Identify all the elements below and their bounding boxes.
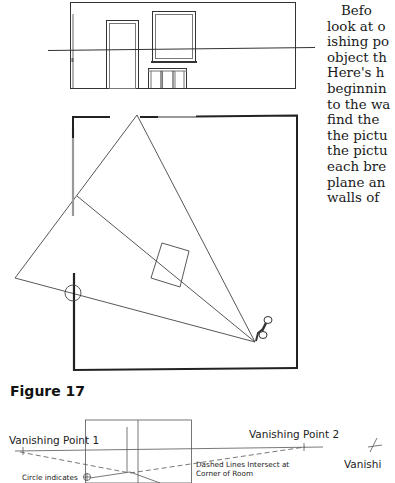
window-outer xyxy=(153,12,196,62)
partial-vp-tick xyxy=(370,438,377,452)
vp3-label-partial: Vanishi xyxy=(344,458,381,470)
wall-elevation xyxy=(48,3,315,89)
view-cone-left-edge xyxy=(15,115,137,278)
floor-line-left xyxy=(90,472,130,478)
vp2-label: Vanishing Point 2 xyxy=(249,428,339,440)
floor-line-right xyxy=(130,472,160,483)
door-outer xyxy=(107,21,139,89)
sight-line-middle xyxy=(77,196,255,342)
dashed-lines-label-line2: Corner of Room xyxy=(196,469,289,478)
horizon-line-lower xyxy=(15,447,323,451)
circle-indicates-label: Circle indicates xyxy=(22,473,78,482)
wall-box xyxy=(86,420,192,483)
room-plan xyxy=(15,115,298,370)
door-inner xyxy=(110,24,136,89)
dashed-lines-label-line1: Dashed Lines Intersect at xyxy=(196,460,289,469)
vp1-label: Vanishing Point 1 xyxy=(9,434,99,446)
dashed-line-left xyxy=(20,452,130,473)
dashed-lines-label: Dashed Lines Intersect at Corner of Room xyxy=(196,460,289,478)
figure-label: Figure 17 xyxy=(10,383,85,399)
view-cone-right-edge xyxy=(137,115,255,342)
sight-line-bottom xyxy=(15,278,255,342)
wall-outline xyxy=(71,3,296,89)
rug-rectangle xyxy=(151,243,189,287)
partial-vp-line xyxy=(368,445,382,447)
room-wall-corner xyxy=(73,117,110,138)
pushpin-icon xyxy=(256,317,272,342)
window-inner xyxy=(156,15,193,59)
wall-left-knob xyxy=(72,58,74,62)
horizon-line xyxy=(48,48,315,51)
